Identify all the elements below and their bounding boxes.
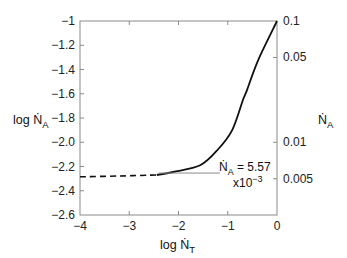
x-tick-label: −1	[221, 219, 235, 233]
y-tick-label-left: −1.4	[51, 63, 75, 77]
y-axis-right-title: ṄA	[318, 113, 334, 130]
y-tick-label-left: −1.6	[51, 87, 75, 101]
x-tick-label: −4	[73, 219, 87, 233]
y-tick-label-left: −1.2	[51, 38, 75, 52]
y-tick-label-left: −2.2	[51, 160, 75, 174]
y-tick-label-right: 0.1	[283, 14, 300, 28]
y-tick-label-right: 0.005	[283, 172, 313, 186]
x-tick-label: −3	[122, 219, 136, 233]
chart-canvas: −4−3−2−10−1−1.2−1.4−1.6−1.8−2.0−2.2−2.4−…	[0, 0, 347, 258]
chart: −4−3−2−10−1−1.2−1.4−1.6−1.8−2.0−2.2−2.4−…	[0, 0, 347, 258]
solid-curve-line	[157, 21, 277, 175]
y-tick-label-left: −2.0	[51, 135, 75, 149]
y-tick-label-right: 0.05	[283, 50, 307, 64]
annotation-value-label: ṄA = 5.57	[219, 160, 271, 177]
x-tick-label: −2	[172, 219, 186, 233]
y-tick-label-left: −1.8	[51, 111, 75, 125]
y-tick-label-left: −2.6	[51, 208, 75, 222]
annotation-exponent-label: x10−3	[233, 174, 263, 190]
tick-labels: −4−3−2−10−1−1.2−1.4−1.6−1.8−2.0−2.2−2.4−…	[51, 14, 313, 233]
dashed-extrapolation-line	[80, 175, 157, 177]
x-axis-title: log ṄT	[160, 238, 195, 255]
x-tick-label: 0	[274, 219, 281, 233]
y-tick-label-right: 0.01	[283, 135, 307, 149]
y-axis-left-title: log ṄA	[13, 113, 49, 130]
y-tick-label-left: −2.4	[51, 184, 75, 198]
y-tick-label-left: −1	[61, 14, 75, 28]
